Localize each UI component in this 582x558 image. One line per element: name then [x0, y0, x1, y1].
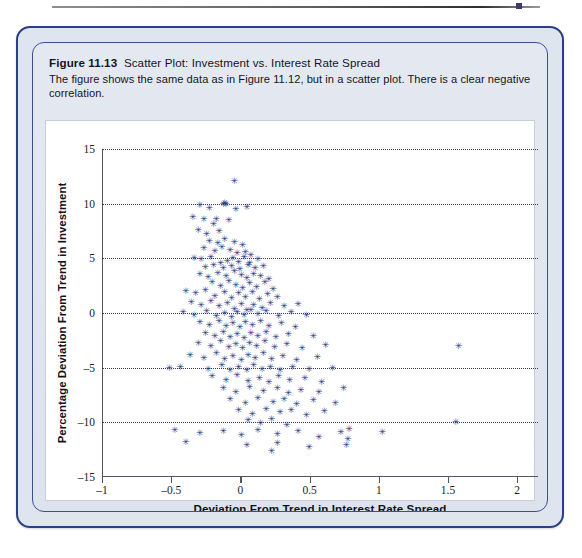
scatter-point — [200, 216, 206, 222]
scatter-point — [305, 444, 311, 450]
scatter-point — [218, 244, 224, 250]
scatter-point — [258, 366, 264, 372]
scatter-point — [276, 367, 282, 373]
scatter-point — [232, 282, 238, 288]
scatter-point — [262, 406, 268, 412]
scatter-point — [221, 289, 227, 295]
scatter-point — [243, 442, 249, 448]
scatter-point — [237, 432, 243, 438]
x-tick-label: 2 — [514, 484, 520, 496]
scatter-point — [232, 206, 238, 212]
scatter-point — [257, 420, 263, 426]
scatter-point — [309, 333, 315, 339]
figure-description: The figure shows the same data as in Fig… — [49, 72, 531, 100]
scatter-point — [254, 256, 260, 262]
scatter-point — [203, 231, 209, 237]
scatter-point — [269, 286, 275, 292]
scatter-point — [201, 287, 207, 293]
scatter-point — [219, 329, 225, 335]
scatter-point — [217, 283, 223, 289]
scatter-point — [212, 350, 218, 356]
scatter-point — [258, 305, 264, 311]
scatter-point — [195, 340, 201, 346]
scatter-point — [208, 373, 214, 379]
scatter-point — [243, 367, 249, 373]
scatter-point — [269, 399, 275, 405]
scatter-point — [455, 343, 461, 349]
scatter-point — [246, 260, 252, 266]
scatter-point — [242, 294, 248, 300]
scatter-point — [237, 357, 243, 363]
scatter-point — [214, 270, 220, 276]
y-tick-label: –5 — [84, 362, 96, 374]
scatter-point — [192, 290, 198, 296]
scatter-point — [201, 264, 207, 270]
scatter-point — [197, 256, 203, 262]
scatter-point — [211, 248, 217, 254]
scatter-point — [186, 352, 192, 358]
scatter-point — [200, 245, 206, 251]
x-tick-label: –1 — [96, 484, 108, 496]
scatter-point — [248, 289, 254, 295]
scatter-point — [298, 345, 304, 351]
scatter-point — [201, 330, 207, 336]
scatter-point — [254, 427, 260, 433]
scatter-point — [221, 310, 227, 316]
scatter-point — [233, 309, 239, 315]
scatter-point — [219, 201, 225, 207]
scatter-points-group — [102, 149, 538, 477]
scatter-point — [265, 379, 271, 385]
scatter-point — [268, 416, 274, 422]
scatter-point — [271, 344, 277, 350]
scatter-point — [196, 430, 202, 436]
scatter-point — [262, 308, 268, 314]
scatter-point — [222, 201, 228, 207]
scatter-point — [273, 385, 279, 391]
scatter-point — [291, 324, 297, 330]
scatter-point — [266, 364, 272, 370]
x-tick-mark — [379, 477, 380, 483]
scatter-point — [315, 389, 321, 395]
scatter-point — [212, 313, 218, 319]
scatter-point — [251, 265, 257, 271]
scatter-point — [322, 342, 328, 348]
x-tick-label: –0.5 — [161, 484, 181, 496]
scatter-point — [232, 341, 238, 347]
x-tick-label: 1.5 — [441, 484, 455, 496]
scatter-point — [182, 439, 188, 445]
scatter-point — [195, 227, 201, 233]
figure-title: Scatter Plot: Investment vs. Interest Ra… — [124, 56, 380, 69]
scatter-point — [260, 350, 266, 356]
scatter-point — [268, 448, 274, 454]
scatter-point — [206, 322, 212, 328]
scatter-point — [345, 426, 351, 432]
scatter-point — [221, 200, 227, 206]
scatter-point — [219, 385, 225, 391]
scatter-point — [222, 323, 228, 329]
x-tick-mark — [240, 477, 241, 483]
scatter-point — [254, 311, 260, 317]
scatter-point — [294, 301, 300, 307]
scatter-point — [248, 411, 254, 417]
scatter-point — [196, 271, 202, 277]
scatter-point — [233, 372, 239, 378]
scatter-point — [318, 379, 324, 385]
scatter-point — [264, 291, 270, 297]
plot-axes-area: 151050–5–10–15 –1–0.500.511.52 — [102, 149, 538, 477]
scatter-point — [340, 385, 346, 391]
scatter-point — [284, 331, 290, 337]
scatter-point — [229, 255, 235, 261]
scatter-point — [190, 312, 196, 318]
scatter-point — [190, 255, 196, 261]
scatter-point — [265, 323, 271, 329]
scatter-point — [207, 298, 213, 304]
scatter-point — [243, 307, 249, 313]
x-tick-label: 1 — [376, 484, 382, 496]
scatter-point — [246, 280, 252, 286]
scatter-point — [177, 364, 183, 370]
scatter-point — [239, 285, 245, 291]
scatter-point — [273, 294, 279, 300]
scatter-point — [226, 396, 232, 402]
scatter-point — [244, 378, 250, 384]
scatter-point — [257, 318, 263, 324]
